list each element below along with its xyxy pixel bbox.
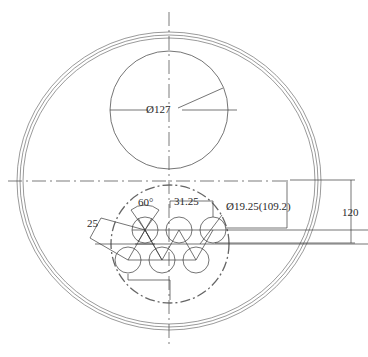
angle-label: 60° xyxy=(138,196,153,208)
tube-bundle xyxy=(95,205,368,300)
height-label: 120 xyxy=(342,206,359,218)
tube-dia-label: Ø19.25(109.2) xyxy=(226,200,291,213)
technical-drawing: Ø127 31.25 60° 25 Ø19.25(109.2) xyxy=(0,0,368,357)
outer-dia-label: Ø127 xyxy=(146,103,171,115)
row-offset-label: 25 xyxy=(87,217,99,229)
row-offset-dim xyxy=(90,218,145,260)
tube-dia-leader xyxy=(200,215,222,244)
pitch-label: 31.25 xyxy=(174,195,199,207)
upper-circle xyxy=(110,51,237,169)
drawing-canvas: Ø127 31.25 60° 25 Ø19.25(109.2) xyxy=(0,0,368,357)
